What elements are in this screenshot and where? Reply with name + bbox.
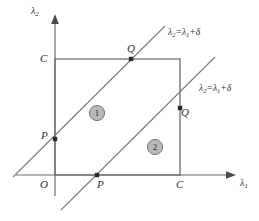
x-axis-arrowhead xyxy=(226,171,236,179)
point-p-on-x-axis xyxy=(95,173,99,177)
p-label-x-axis: P xyxy=(97,179,104,190)
eq2-tail: +δ xyxy=(220,83,231,93)
y-axis-label-subscript: 2 xyxy=(35,10,39,18)
x-axis-label: λ1 xyxy=(240,178,248,190)
lower-diagonal-equation: λ2=λ1+δ xyxy=(199,84,231,94)
point-p-on-y-axis xyxy=(53,137,57,141)
y-axis-arrowhead xyxy=(51,14,59,24)
eq1-tail: +δ xyxy=(189,27,200,37)
region-one-label: 1 xyxy=(92,109,102,118)
point-q-on-top-edge xyxy=(129,57,133,61)
figure-canvas xyxy=(0,0,259,221)
upper-diagonal-equation: λ2=λ1+δ xyxy=(168,28,200,38)
upper-diagonal-line xyxy=(13,26,165,177)
y-axis-label: λ2 xyxy=(31,6,39,18)
origin-label: O xyxy=(40,179,48,190)
c-label-x-axis: C xyxy=(176,179,183,190)
c-label-y-axis: C xyxy=(40,53,47,64)
figure-container: λ2 λ1 O C C P P Q Q λ2=λ1+δ λ2=λ1+δ 1 2 xyxy=(0,0,259,221)
x-axis-label-subscript: 1 xyxy=(244,182,248,190)
p-label-y-axis: P xyxy=(41,130,48,141)
q-label-top-edge: Q xyxy=(127,43,135,54)
q-label-right-edge: Q xyxy=(181,107,189,118)
lower-diagonal-line xyxy=(61,57,215,210)
region-two-label: 2 xyxy=(150,143,160,152)
